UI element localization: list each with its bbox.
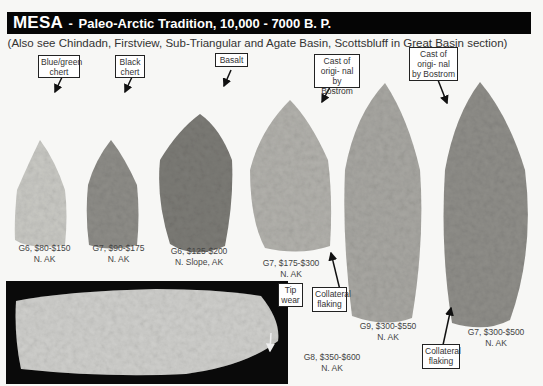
grade-price: G6, $80-$150: [12, 243, 77, 254]
location: N. AK: [12, 254, 77, 265]
callout-cast-2: Cast of origi- nal by Bostrom: [409, 47, 458, 81]
caption-point-1: G6, $80-$150 N. AK: [12, 243, 77, 264]
point-1-blue-green-chert: [15, 140, 67, 247]
caption-point-3: G6, $125-$200 N. Slope, AK: [164, 246, 234, 267]
grade-price: G7, $175-$300: [256, 258, 326, 269]
caption-point-4: G7, $175-$300 N. AK: [256, 258, 326, 279]
caption-point-5: G9, $300-$550 N. AK: [353, 321, 423, 342]
callout-cast-1: Cast of origi- nal by Bostrom: [314, 54, 360, 88]
grade-price: G9, $300-$550: [353, 321, 423, 332]
point-2-black-chert: [87, 140, 139, 249]
location: N. AK: [460, 338, 532, 349]
point-4-cast: [250, 100, 331, 252]
grade-price: G7, $300-$500: [460, 327, 532, 338]
grade-price: G8, $350-$600: [296, 352, 368, 363]
caption-point-7: G8, $350-$600 N. AK: [296, 352, 368, 373]
grade-price: G6, $125-$200: [164, 246, 234, 257]
callout-blue-green-chert: Blue/green chert: [38, 55, 80, 78]
point-6-cast: [444, 82, 528, 327]
callout-collateral-flaking-2: Collateral flaking: [422, 344, 460, 369]
caption-point-6: G7, $300-$500 N. AK: [460, 327, 532, 348]
location: N. Slope, AK: [164, 257, 234, 268]
caption-point-2: G7, $90-$175 N. AK: [86, 243, 151, 264]
location: N. AK: [256, 269, 326, 280]
location: N. AK: [86, 254, 151, 265]
location: N. AK: [353, 332, 423, 343]
point-7-g8: [6, 281, 288, 384]
grade-price: G7, $90-$175: [86, 243, 151, 254]
point-7-photo-panel: [6, 281, 288, 384]
callout-black-chert: Black chert: [115, 55, 145, 78]
location: N. AK: [296, 363, 368, 374]
point-5-g9: [344, 83, 421, 323]
point-3-basalt: [159, 114, 232, 253]
callout-collateral-flaking-1: Collateral flaking: [312, 287, 347, 312]
callout-tip-wear: Tip wear: [278, 283, 303, 307]
callout-basalt: Basalt: [215, 53, 248, 67]
